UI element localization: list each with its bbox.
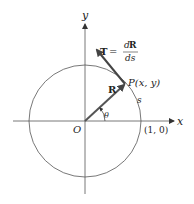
y-axis-label: y (81, 9, 89, 22)
fraction-numerator-r: R (129, 40, 137, 50)
arc-length-label: s (137, 95, 142, 105)
point-p-label: P(x, y) (127, 77, 160, 88)
fraction-denominator: ds (125, 53, 136, 63)
position-vector-label: R (108, 84, 117, 95)
equals-sign: = (109, 46, 117, 57)
origin-label: O (73, 124, 81, 135)
point-1-0-label: (1, 0) (144, 125, 168, 135)
x-axis-label: x (177, 115, 184, 128)
theta-label: θ (104, 111, 109, 120)
tangent-label-t: T (100, 46, 108, 57)
unit-circle-diagram: y x O (1, 0) R P(x, y) θ s T = d R ds (0, 0, 194, 204)
